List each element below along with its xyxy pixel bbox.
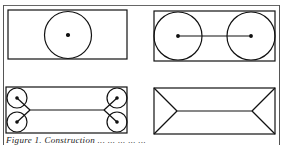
panel-b	[154, 11, 275, 61]
panel-a	[8, 10, 127, 59]
panel-c	[6, 87, 127, 133]
figure-caption: Figure 1. Construction ... ... ... ... .…	[6, 135, 146, 145]
figure-diagram	[0, 0, 285, 145]
panel-d	[154, 88, 275, 134]
